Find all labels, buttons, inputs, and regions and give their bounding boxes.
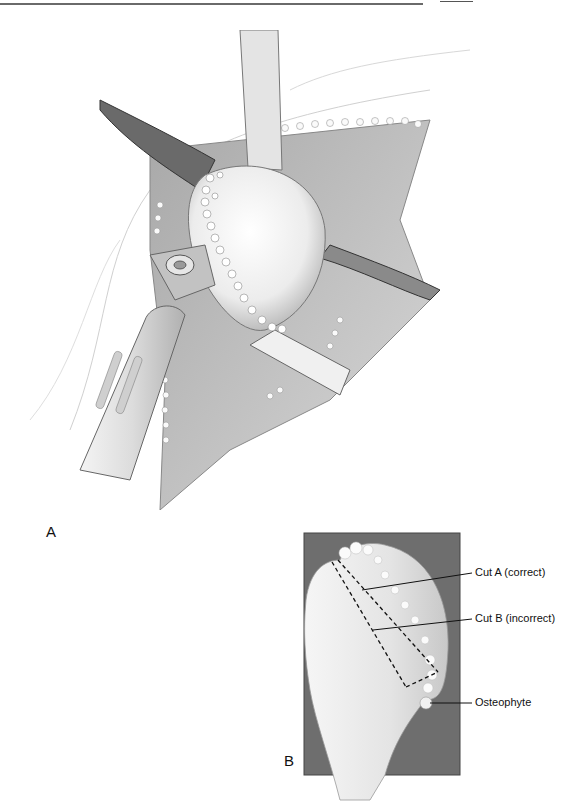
- callout-osteophyte: Osteophyte: [475, 696, 531, 708]
- panel-b-diagram: [0, 0, 584, 810]
- callout-cut-a: Cut A (correct): [475, 566, 545, 578]
- panel-label-b: B: [284, 752, 294, 769]
- callout-cut-b: Cut B (incorrect): [475, 612, 555, 624]
